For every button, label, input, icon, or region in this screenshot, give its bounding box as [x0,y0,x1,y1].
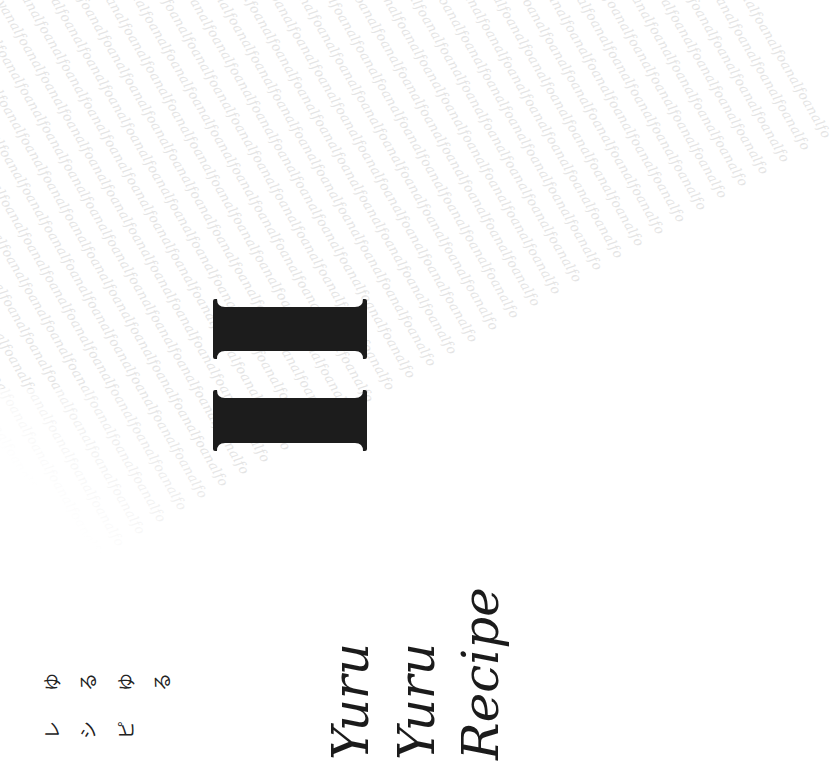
watermark-line: lyanalfoanalfoanalfoanalfoanalfoanalfoan… [528,0,834,557]
jp-char: る [153,672,173,692]
watermark-line: lyanalfoanalfoanalfoanalfoanalfoanalfoan… [466,0,834,593]
watermark-line: lyanalfoanalfoanalfoanalfoanalfoanalfoan… [341,0,834,665]
jp-char: ゆ [117,672,137,692]
watermark-line: lyanalfoanalfoanalfoanalfoanalfoanalfoan… [424,0,834,617]
watermark-line: lyanalfoanalfoanalfoanalfoanalfoanalfoan… [486,0,834,581]
watermark-line: lyanalfoanalfoanalfoanalfoanalfoanalfoan… [445,0,834,605]
title-line-2: Yuru [388,643,446,760]
jp-char: レ [43,720,63,740]
title-line-3: Recipe [452,587,510,760]
jp-char: ピ [117,720,137,740]
watermark-line: lyanalfoanalfoanalfoanalfoanalfoanalfoan… [362,0,834,653]
watermark-line: lyanalfoanalfoanalfoanalfoanalfoanalfoan… [403,0,834,629]
jp-char: ゆ [43,672,63,692]
watermark-line: lyanalfoanalfoanalfoanalfoanalfoanalfoan… [299,0,820,689]
watermark-line: lyanalfoanalfoanalfoanalfoanalfoanalfoan… [549,0,834,545]
jp-char: る [79,672,99,692]
jp-char: シ [79,720,99,740]
watermark-line: lyanalfoanalfoanalfoanalfoanalfoanalfoan… [507,0,834,569]
roman-numeral-two [213,299,367,453]
title-line-1: Yuru [322,643,380,760]
watermark-line: lyanalfoanalfoanalfoanalfoanalfoanalfoan… [383,0,834,641]
watermark-line: lyanalfoanalfoanalfoanalfoanalfoanalfoan… [320,0,834,677]
